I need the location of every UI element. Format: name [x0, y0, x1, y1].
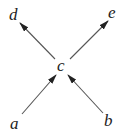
- node-e-label: e: [108, 3, 116, 22]
- edge-c-e: [70, 21, 108, 59]
- edge-c-d: [20, 23, 55, 59]
- edge-b-c: [68, 75, 103, 113]
- node-d-label: d: [9, 5, 18, 24]
- node-b-label: b: [104, 111, 113, 130]
- edge-a-c: [22, 75, 56, 114]
- node-c-label: c: [57, 56, 65, 75]
- node-a-label: a: [10, 114, 19, 133]
- directed-graph: a b c d e: [0, 0, 123, 137]
